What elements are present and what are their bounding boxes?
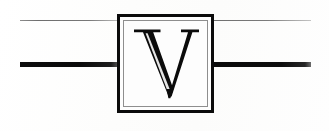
initial-frame-inner-border <box>123 20 208 107</box>
initial-frame-outer-border <box>117 14 214 113</box>
thin-rule-right <box>213 20 311 21</box>
thick-rule-right <box>212 62 311 67</box>
decorative-initial-v-glyph <box>130 26 202 102</box>
scanned-page <box>0 0 329 131</box>
thick-rule-left <box>20 62 119 67</box>
thin-rule-left <box>20 20 118 21</box>
